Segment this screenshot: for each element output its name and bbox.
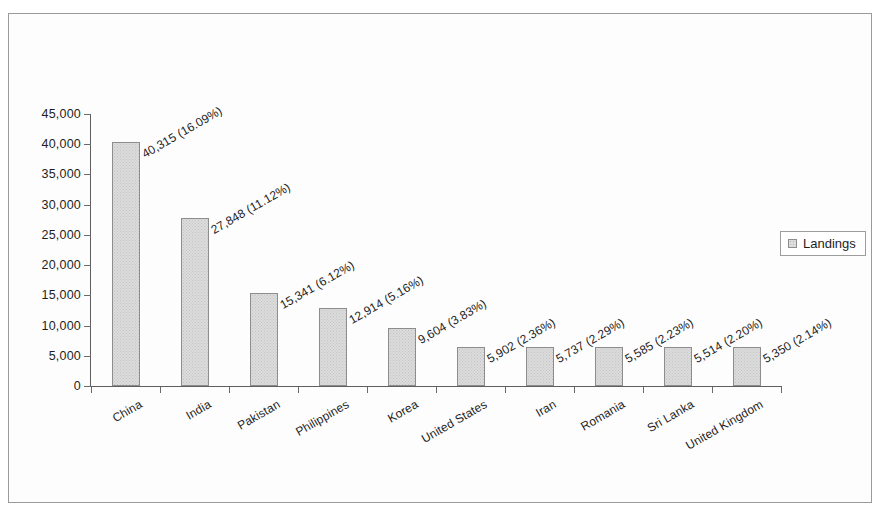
x-tick-mark xyxy=(643,387,644,393)
x-tick-mark xyxy=(712,387,713,393)
y-tick-label-text: 5,000 xyxy=(25,350,81,363)
y-tick-mark xyxy=(84,265,91,266)
y-tick-label: 25,000 xyxy=(21,229,81,241)
y-tick-label-text: 10,000 xyxy=(25,320,81,333)
bar[interactable] xyxy=(664,347,692,386)
bar[interactable] xyxy=(457,347,485,386)
x-axis-line xyxy=(85,386,782,387)
x-tick-mark xyxy=(367,387,368,393)
y-tick-label-text: 25,000 xyxy=(25,229,81,242)
x-tick-mark xyxy=(781,387,782,393)
y-tick-label-text: 35,000 xyxy=(25,168,81,181)
y-tick-label-text: 0 xyxy=(25,380,81,393)
x-category-label: India xyxy=(86,398,213,478)
y-tick-label-text: 45,000 xyxy=(25,108,81,121)
x-tick-mark xyxy=(91,387,92,393)
bar-value-label: 27,848 (11.12%) xyxy=(209,181,292,236)
x-category-label: Philippines xyxy=(224,398,351,478)
y-tick-mark xyxy=(84,235,91,236)
bar[interactable] xyxy=(112,142,140,386)
x-category-label: United Kingdom xyxy=(638,398,765,478)
y-tick-label-text: 20,000 xyxy=(25,259,81,272)
bar-value-label: 9,604 (3.83%) xyxy=(416,297,488,346)
x-tick-mark xyxy=(436,387,437,393)
x-tick-mark xyxy=(160,387,161,393)
x-category-label: China xyxy=(17,398,144,478)
bar-value-label: 40,315 (16.09%) xyxy=(140,104,224,160)
bar[interactable] xyxy=(733,347,761,386)
y-tick-label: 35,000 xyxy=(21,168,81,180)
y-tick-mark xyxy=(84,356,91,357)
bar[interactable] xyxy=(250,293,278,386)
x-tick-mark xyxy=(229,387,230,393)
y-tick-mark xyxy=(84,205,91,206)
bar[interactable] xyxy=(181,218,209,386)
x-category-label: Korea xyxy=(293,398,420,478)
bar[interactable] xyxy=(595,347,623,386)
x-tick-mark xyxy=(298,387,299,393)
y-tick-label: 15,000 xyxy=(21,289,81,301)
x-tick-mark xyxy=(574,387,575,393)
x-category-label: Pakistan xyxy=(155,398,282,478)
y-tick-label: 30,000 xyxy=(21,199,81,211)
y-tick-label-text: 30,000 xyxy=(25,199,81,212)
chart-legend[interactable]: Landings xyxy=(780,231,866,256)
x-category-label: United States xyxy=(362,398,489,478)
x-category-label: Sri Lanka xyxy=(569,398,696,478)
bar-value-label: 5,350 (2.14%) xyxy=(761,316,833,365)
y-tick-mark xyxy=(84,295,91,296)
plot-area: 45,00040,00035,00030,00025,00020,00015,0… xyxy=(9,14,871,502)
bar[interactable] xyxy=(526,347,554,386)
y-tick-mark xyxy=(84,174,91,175)
legend-swatch-icon xyxy=(788,239,797,248)
y-tick-label: 40,000 xyxy=(21,138,81,150)
bar-value-label: 12,914 (5.16%) xyxy=(347,274,425,326)
y-tick-label: 20,000 xyxy=(21,259,81,271)
bar[interactable] xyxy=(319,308,347,386)
y-tick-mark xyxy=(84,144,91,145)
y-tick-label: 0 xyxy=(21,380,81,392)
y-tick-label: 45,000 xyxy=(21,108,81,120)
bar[interactable] xyxy=(388,328,416,386)
y-tick-label: 5,000 xyxy=(21,350,81,362)
legend-label: Landings xyxy=(803,237,856,250)
chart-frame: 45,00040,00035,00030,00025,00020,00015,0… xyxy=(8,13,872,503)
y-tick-mark xyxy=(84,386,91,387)
y-tick-label-text: 15,000 xyxy=(25,289,81,302)
y-tick-label: 10,000 xyxy=(21,320,81,332)
x-category-label: Iran xyxy=(431,398,558,478)
y-tick-mark xyxy=(84,114,91,115)
x-category-label: Romania xyxy=(500,398,627,478)
bar-value-label: 15,341 (6.12%) xyxy=(278,259,356,311)
y-axis-line xyxy=(90,114,91,387)
x-tick-mark xyxy=(505,387,506,393)
y-tick-label-text: 40,000 xyxy=(25,138,81,151)
y-tick-mark xyxy=(84,326,91,327)
